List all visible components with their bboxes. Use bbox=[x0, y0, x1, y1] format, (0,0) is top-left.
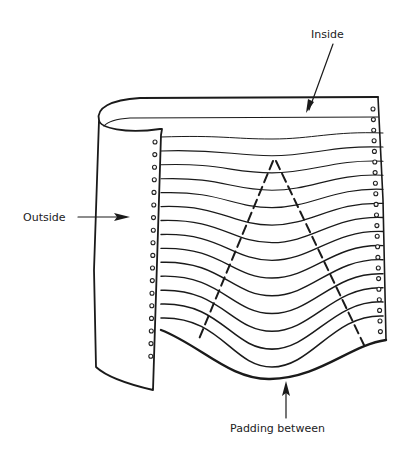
outside-panel-inner-fold bbox=[104, 117, 378, 126]
feed-hole bbox=[377, 298, 381, 302]
feed-hole bbox=[378, 330, 382, 334]
feed-hole bbox=[372, 139, 376, 143]
feed-hole bbox=[372, 128, 376, 132]
feed-hole bbox=[374, 192, 378, 196]
feed-hole bbox=[371, 107, 375, 111]
feed-hole bbox=[150, 316, 154, 320]
feed-hole bbox=[149, 342, 153, 346]
feed-hole bbox=[153, 140, 157, 144]
outside-panel bbox=[94, 97, 378, 390]
feed-hole bbox=[152, 178, 156, 182]
sheet-line bbox=[161, 147, 383, 156]
feed-hole bbox=[152, 216, 156, 220]
feed-hole bbox=[377, 277, 381, 281]
feed-hole bbox=[377, 287, 381, 291]
sheet-line bbox=[161, 189, 383, 207]
feed-hole bbox=[376, 255, 380, 259]
feed-hole bbox=[151, 241, 155, 245]
feed-hole bbox=[151, 266, 155, 270]
sheet-line bbox=[161, 316, 383, 367]
feed-hole bbox=[376, 266, 380, 270]
feed-hole bbox=[373, 160, 377, 164]
sheet-line bbox=[161, 302, 383, 349]
feed-hole bbox=[149, 354, 153, 358]
feed-hole bbox=[374, 202, 378, 206]
feed-hole bbox=[151, 253, 155, 257]
feed-hole bbox=[373, 171, 377, 175]
feed-hole bbox=[376, 245, 380, 249]
feed-hole bbox=[150, 291, 154, 295]
feed-hole bbox=[151, 228, 155, 232]
feed-hole bbox=[153, 165, 157, 169]
dashed-fold-right bbox=[276, 161, 364, 345]
feed-hole bbox=[375, 224, 379, 228]
feed-hole bbox=[150, 304, 154, 308]
inside-label: Inside bbox=[311, 28, 344, 41]
feed-hole bbox=[149, 329, 153, 333]
feed-hole bbox=[150, 279, 154, 283]
feed-hole bbox=[372, 149, 376, 153]
sheet-line bbox=[161, 175, 383, 190]
feed-hole bbox=[153, 153, 157, 157]
sheet-line bbox=[161, 133, 383, 139]
sheet-line bbox=[161, 217, 383, 242]
feed-hole bbox=[378, 308, 382, 312]
outside-label: Outside bbox=[23, 211, 66, 224]
sheet-line bbox=[161, 231, 383, 260]
stack-bottom-edge bbox=[161, 330, 386, 379]
feed-hole bbox=[152, 190, 156, 194]
feed-hole bbox=[152, 203, 156, 207]
feed-hole bbox=[375, 234, 379, 238]
feed-hole bbox=[375, 213, 379, 217]
inside-arrow bbox=[309, 44, 333, 110]
paper-sheets bbox=[161, 133, 383, 367]
feed-hole bbox=[371, 118, 375, 122]
sheet-line bbox=[161, 246, 383, 278]
padding-label: Padding between bbox=[230, 422, 325, 435]
fanfold-paper-diagram: Inside Outside Padding between bbox=[0, 0, 413, 471]
feed-hole bbox=[373, 181, 377, 185]
feed-hole bbox=[378, 319, 382, 323]
